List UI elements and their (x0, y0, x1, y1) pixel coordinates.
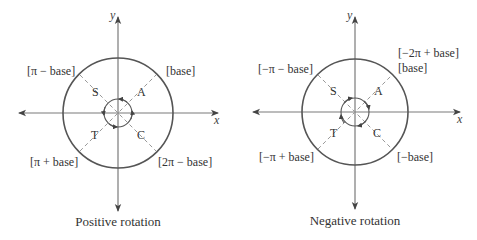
quadrant-label-a: A (374, 84, 383, 98)
negative-rotation-diagram: y x A S T C [−2π + base] [base] [−π − ba… (253, 8, 463, 228)
positive-rotation-diagram: y x A S T C [base] [π − base] [π + base]… (19, 8, 220, 229)
angle-label-q2: [−π − base] (258, 62, 313, 76)
angle-label-q1: [base] (166, 64, 195, 78)
quadrant-label-c: C (137, 128, 145, 142)
rotation-diagrams: y x A S T C [base] [π − base] [π + base]… (0, 0, 477, 240)
caption-positive-rotation: Positive rotation (75, 214, 161, 229)
quadrant-label-a: A (137, 85, 146, 99)
quadrant-label-t: T (91, 128, 99, 142)
caption-negative-rotation: Negative rotation (310, 213, 401, 228)
x-axis-label: x (213, 113, 220, 127)
y-axis-label: y (346, 8, 353, 22)
angle-label-q3: [π + base] (30, 155, 78, 169)
quadrant-label-t: T (330, 126, 338, 140)
y-axis-label: y (109, 8, 116, 22)
angle-label-q3: [−π + base] (259, 150, 314, 164)
angle-label-q4: [2π − base] (158, 155, 212, 169)
quadrant-label-s: S (92, 85, 99, 99)
quadrant-label-s: S (330, 84, 337, 98)
angle-label-q1-negative: [−2π + base] (398, 46, 459, 60)
angle-label-q2: [π − base] (27, 64, 75, 78)
angle-label-q1: [base] (398, 61, 427, 75)
quadrant-label-c: C (373, 126, 381, 140)
x-axis-label: x (456, 112, 463, 126)
angle-label-q4: [−base] (397, 150, 433, 164)
